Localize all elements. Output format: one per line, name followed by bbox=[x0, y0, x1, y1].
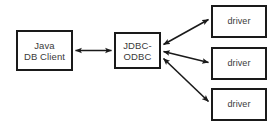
node-driver-3-label: driver bbox=[227, 99, 250, 110]
node-jdbc-odbc: JDBC- ODBC bbox=[114, 32, 161, 69]
connector-bridge-driver-3 bbox=[164, 59, 209, 102]
node-java-db-client-line-2: DB Client bbox=[24, 51, 65, 62]
diagram-canvas: Java DB Client JDBC- ODBC driver driver … bbox=[0, 0, 273, 123]
node-driver-2: driver bbox=[211, 47, 267, 80]
node-java-db-client: Java DB Client bbox=[16, 30, 73, 71]
connector-bridge-driver-1 bbox=[164, 20, 209, 45]
node-driver-1: driver bbox=[211, 5, 267, 38]
node-driver-1-label: driver bbox=[227, 16, 250, 27]
node-jdbc-odbc-line-2: ODBC bbox=[124, 51, 152, 62]
connector-bridge-driver-2 bbox=[164, 52, 209, 63]
node-driver-2-label: driver bbox=[227, 58, 250, 69]
node-jdbc-odbc-line-1: JDBC- bbox=[123, 40, 151, 51]
node-java-db-client-line-1: Java bbox=[34, 40, 54, 51]
node-driver-3: driver bbox=[211, 88, 267, 121]
